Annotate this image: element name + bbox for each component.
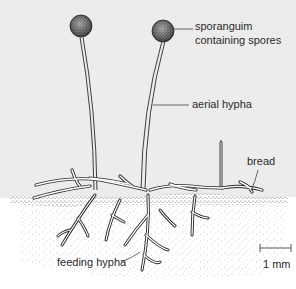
aerial-hyphae	[80, 37, 222, 190]
label-sporangium-line2: containing spores	[195, 34, 281, 47]
bread-mould-diagram: sporanguim containing spores aerial hyph…	[0, 0, 296, 289]
label-feeding-hypha: feeding hypha	[57, 256, 126, 269]
label-aerial-hypha: aerial hypha	[192, 98, 252, 111]
label-scale: 1 mm	[263, 258, 291, 271]
label-sporangium-line1: sporanguim	[195, 20, 252, 33]
label-bread: bread	[247, 155, 275, 168]
sporangia	[70, 15, 174, 42]
